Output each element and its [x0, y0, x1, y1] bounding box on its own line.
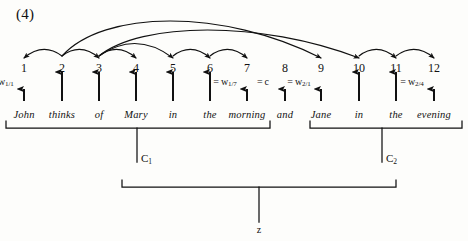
diagram-vector-layer: [0, 0, 468, 241]
node-number-6: 6: [198, 62, 222, 74]
node-number-7: 7: [235, 62, 259, 74]
node-number-8: 8: [273, 62, 297, 74]
equals-sign: =: [257, 76, 263, 87]
dependency-arcs: [24, 21, 434, 58]
node-equation-12: =w2/4: [382, 77, 442, 88]
equals-sign: =: [287, 76, 293, 87]
equation-subscript-9: 2/1: [302, 80, 311, 88]
node-number-5: 5: [161, 62, 185, 74]
node-number-9: 9: [309, 62, 333, 74]
equation-subscript-1: 1/1: [5, 80, 14, 88]
word-12: evening: [404, 110, 464, 121]
arc-11-to-12: [396, 49, 434, 58]
equation-subscript-12: 2/4: [415, 80, 424, 88]
node-number-2: 2: [50, 62, 74, 74]
constituent-brackets: [6, 121, 462, 222]
node-number-11: 11: [384, 62, 408, 74]
bracket-label-text-Z: z: [257, 224, 261, 235]
node-number-12: 12: [422, 62, 446, 74]
arc-10-to-11: [359, 49, 396, 58]
bracket-label-C1: C1: [141, 153, 152, 165]
arc-6-to-7: [210, 49, 247, 58]
figure-canvas: (4) 123456789101112 =w1/1=w1/7=c=w2/1=w2…: [0, 0, 468, 241]
bracket-label-Z: z: [249, 225, 269, 235]
bracket-C2: [310, 121, 462, 128]
bracket-label-subscript-C2: 2: [393, 157, 397, 166]
bracket-C1: [6, 121, 270, 128]
arc-2-to-9: [62, 21, 321, 58]
node-number-3: 3: [87, 62, 111, 74]
node-number-1: 1: [12, 62, 36, 74]
node-number-10: 10: [347, 62, 371, 74]
bracket-Z: [122, 180, 396, 187]
arc-5-to-6: [173, 49, 210, 58]
bracket-label-C2: C2: [386, 153, 397, 165]
bracket-label-subscript-C1: 1: [148, 157, 152, 166]
equals-sign: =: [400, 76, 406, 87]
node-equation-9: =w2/1: [269, 77, 329, 88]
arc-2-to-1: [24, 49, 62, 58]
node-number-4: 4: [124, 62, 148, 74]
node-equation-1: =w1/1: [0, 77, 32, 88]
equals-sign: =: [213, 76, 219, 87]
arc-3-to-4: [99, 49, 136, 58]
